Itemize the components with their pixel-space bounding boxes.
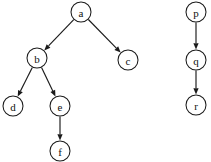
graph-node-label: d [10,101,16,113]
graph-node[interactable]: d [3,96,23,116]
graph-edge [44,20,73,51]
graph-svg-root: abcdefpqr [0,0,211,162]
graph-node[interactable]: r [186,95,206,115]
graph-node-label: e [58,101,63,113]
graph-node-label: c [126,55,131,67]
graph-node-label: r [194,100,198,112]
graph-node[interactable]: c [118,50,138,70]
graph-node[interactable]: b [27,48,47,68]
graph-node-label: f [58,146,62,158]
graph-node-label: p [193,7,199,19]
graph-diagram-canvas: abcdefpqr [0,0,211,162]
graph-node[interactable]: e [50,96,70,116]
graph-edge [42,67,56,96]
graph-node-label: q [193,55,199,67]
arrowhead-icon [193,88,198,94]
graph-node-label: b [34,53,40,65]
graph-node[interactable]: q [186,50,206,70]
arrowhead-icon [57,134,62,140]
graph-node[interactable]: p [186,2,206,22]
graph-edge [193,23,198,50]
graph-node-label: a [79,7,84,19]
edge-layer [18,20,199,141]
graph-node[interactable]: f [50,141,70,161]
arrowhead-icon [193,43,198,49]
graph-edge [57,117,62,141]
node-layer: abcdefpqr [3,2,206,161]
graph-edge [193,71,198,95]
graph-edge [18,67,33,96]
graph-node[interactable]: a [71,2,91,22]
graph-edge [88,20,120,53]
